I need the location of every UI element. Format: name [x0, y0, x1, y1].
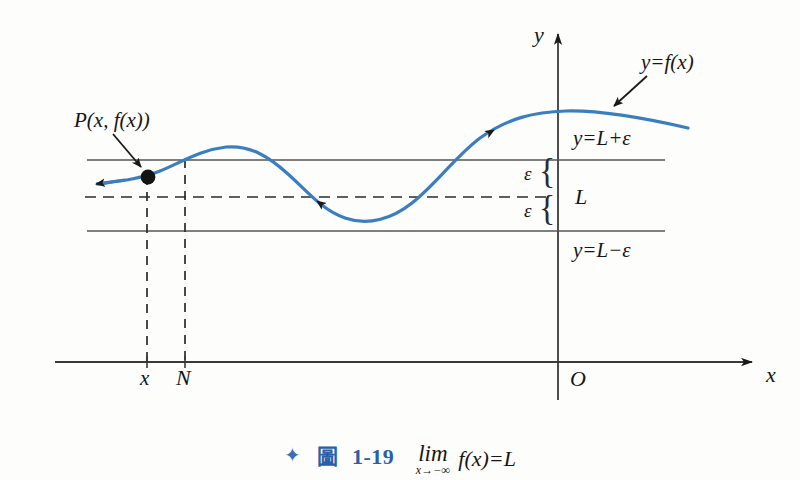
origin-label: O	[570, 366, 586, 392]
limit-subscript-text: x→−∞	[416, 464, 450, 476]
x-axis-label: x	[766, 362, 776, 388]
limit-op-text: lim	[416, 442, 450, 465]
tick-label-x: x	[140, 366, 149, 391]
brace-lower-epsilon: {	[539, 190, 555, 226]
point-P-marker	[141, 170, 156, 185]
limit-operator: lim x→−∞	[416, 442, 450, 476]
y-axis-label: y	[534, 22, 544, 48]
caption-cjk-label: 圖	[317, 445, 338, 469]
point-P-label: P(x, f(x))	[74, 108, 150, 133]
upper-band-label: y=L+ε	[573, 126, 631, 151]
lower-band-label: y=L−ε	[573, 238, 631, 263]
figure-container: y x O x N P(x, f(x)) y=f(x) y=L+ε y=L−ε …	[0, 0, 800, 480]
figure-number: 1-19	[352, 444, 394, 469]
curve-arrow-left	[96, 180, 125, 184]
figure-caption: ✦ 圖 1-19 lim x→−∞ f(x)=L	[0, 440, 800, 476]
leader-arrow-curve-label	[614, 76, 647, 106]
leader-arrow-point-P	[113, 134, 141, 167]
caption-equation: lim x→−∞ f(x)=L	[416, 442, 516, 476]
limit-value-label: L	[575, 184, 587, 210]
star-icon: ✦	[284, 444, 301, 466]
epsilon-label-lower: ε	[524, 200, 532, 222]
limit-body-text: f(x)=L	[458, 446, 516, 472]
curve-equation-label: y=f(x)	[641, 50, 694, 75]
brace-upper-epsilon: {	[539, 153, 555, 189]
tick-label-N: N	[176, 365, 191, 391]
epsilon-label-upper: ε	[524, 163, 532, 185]
